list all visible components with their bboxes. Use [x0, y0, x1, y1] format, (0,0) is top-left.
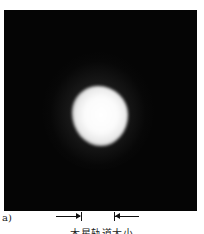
astronomical-image-panel — [4, 10, 197, 211]
bright-source-blob — [72, 86, 128, 146]
scale-arrow-right — [115, 216, 139, 217]
scale-caption: 木星轨道大小 — [70, 225, 133, 234]
scale-tick-left — [81, 212, 82, 221]
panel-label: a) — [2, 212, 12, 223]
